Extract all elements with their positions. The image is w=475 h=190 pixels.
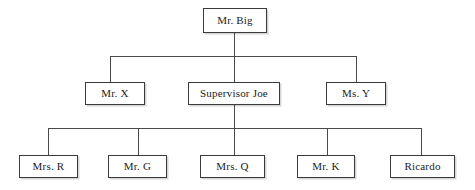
org-node-supervisor-joe[interactable]: Supervisor Joe <box>188 82 280 105</box>
org-node-label: Supervisor Joe <box>200 88 268 99</box>
org-node-label: Mr. Big <box>217 15 253 26</box>
org-node-label: Ms. Y <box>342 88 370 99</box>
edge-level2-bus <box>48 128 422 129</box>
edge-supervisor-stem <box>234 105 235 128</box>
org-node-label: Mrs. Q <box>216 161 248 172</box>
edge-big-to-supervisor-joe <box>234 56 235 82</box>
org-node-mr-big[interactable]: Mr. Big <box>203 8 267 33</box>
edge-big-to-ms-y <box>356 56 357 82</box>
edge-supervisor-to-ricardo <box>421 128 422 155</box>
org-node-ricardo[interactable]: Ricardo <box>390 155 455 178</box>
org-node-label: Ricardo <box>404 161 440 172</box>
org-node-label: Mr. K <box>312 161 339 172</box>
org-chart: Mr. Big Mr. X Supervisor Joe Ms. Y Mrs. … <box>0 0 475 190</box>
edge-supervisor-to-mr-g <box>138 128 139 155</box>
org-node-ms-y[interactable]: Ms. Y <box>326 82 386 105</box>
edge-supervisor-to-mrs-r <box>48 128 49 155</box>
org-node-mr-x[interactable]: Mr. X <box>85 82 145 105</box>
org-node-mrs-r[interactable]: Mrs. R <box>19 155 78 178</box>
edge-level1-bus <box>110 56 356 57</box>
edge-big-stem <box>234 33 235 56</box>
org-node-mrs-q[interactable]: Mrs. Q <box>200 155 265 178</box>
org-node-label: Mr. G <box>124 161 151 172</box>
edge-supervisor-to-mr-k <box>327 128 328 155</box>
edge-big-to-mr-x <box>110 56 111 82</box>
org-node-label: Mrs. R <box>33 161 65 172</box>
org-node-label: Mr. X <box>101 88 128 99</box>
edge-supervisor-to-mrs-q <box>234 128 235 155</box>
org-node-mr-k[interactable]: Mr. K <box>297 155 355 178</box>
org-node-mr-g[interactable]: Mr. G <box>108 155 167 178</box>
